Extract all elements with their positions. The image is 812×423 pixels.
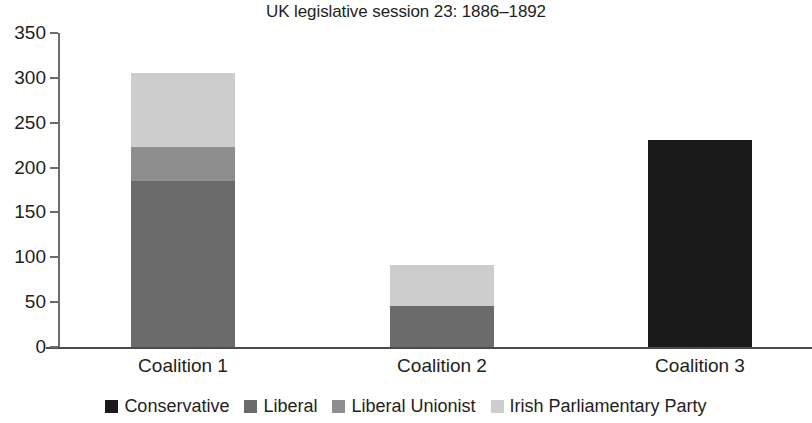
stacked-bar-chart: UK legislative session 23: 1886–1892 350… <box>0 0 812 423</box>
bar-segment-liberal[interactable] <box>131 181 235 347</box>
bar-group-coalition-3[interactable] <box>648 33 752 347</box>
y-axis-tick-label-wrapper: 250 <box>0 113 46 132</box>
bar-group-coalition-2[interactable] <box>390 33 494 347</box>
x-axis-label-2: Coalition 2 <box>332 354 552 378</box>
bar-group-coalition-1[interactable] <box>131 33 235 347</box>
y-axis-tick-label: 100 <box>2 247 46 266</box>
legend-label: Irish Parliamentary Party <box>510 396 707 416</box>
chart-title: UK legislative session 23: 1886–1892 <box>0 2 812 22</box>
y-axis-tick-0 <box>50 346 58 348</box>
y-axis-tick-label: 300 <box>2 68 46 87</box>
legend-label: Liberal <box>263 396 317 416</box>
legend-label: Conservative <box>124 396 229 416</box>
x-axis-label-3: Coalition 3 <box>590 354 810 378</box>
y-axis-tick-label-wrapper: 150 <box>0 202 46 221</box>
y-axis-tick-label: 250 <box>2 113 46 132</box>
x-axis-label-1: Coalition 1 <box>73 354 293 378</box>
legend-swatch-liberal-unionist <box>332 400 345 413</box>
legend-item-conservative[interactable]: Conservative <box>105 396 229 416</box>
y-axis-tick-150 <box>50 211 58 213</box>
bar-segment-liberal[interactable] <box>390 306 494 347</box>
legend-swatch-liberal <box>244 400 257 413</box>
y-axis-tick-250 <box>50 122 58 124</box>
legend-swatch-irish-parliamentary-party <box>491 400 504 413</box>
legend-item-liberal[interactable]: Liberal <box>244 396 317 416</box>
legend-item-irish-parliamentary-party[interactable]: Irish Parliamentary Party <box>491 396 707 416</box>
y-axis-line <box>58 33 60 349</box>
y-axis-tick-label: 350 <box>2 23 46 42</box>
bar-segment-liberal-unionist[interactable] <box>131 147 235 181</box>
y-axis-tick-100 <box>50 256 58 258</box>
y-axis-tick-label-wrapper: 50 <box>0 292 46 311</box>
y-axis-tick-label-wrapper: 350 <box>0 23 46 42</box>
y-axis-tick-50 <box>50 301 58 303</box>
y-axis-tick-label-wrapper: 200 <box>0 158 46 177</box>
legend-swatch-conservative <box>105 400 118 413</box>
y-axis-tick-label: 50 <box>2 292 46 311</box>
y-axis-tick-label-wrapper: 0 <box>0 337 46 356</box>
bar-segment-irish-parliamentary-party[interactable] <box>131 73 235 147</box>
bar-segment-conservative[interactable] <box>648 140 752 347</box>
legend-item-liberal-unionist[interactable]: Liberal Unionist <box>332 396 475 416</box>
y-axis-tick-350 <box>50 32 58 34</box>
y-axis-tick-label-wrapper: 100 <box>0 247 46 266</box>
bar-segment-irish-parliamentary-party[interactable] <box>390 265 494 305</box>
y-axis-tick-300 <box>50 77 58 79</box>
legend-label: Liberal Unionist <box>351 396 475 416</box>
x-axis-line <box>46 347 812 349</box>
y-axis-tick-label-wrapper: 300 <box>0 68 46 87</box>
y-axis-tick-label: 0 <box>2 337 46 356</box>
y-axis-tick-label: 200 <box>2 158 46 177</box>
chart-legend: ConservativeLiberalLiberal UnionistIrish… <box>0 396 812 416</box>
y-axis-tick-200 <box>50 167 58 169</box>
y-axis-tick-label: 150 <box>2 202 46 221</box>
